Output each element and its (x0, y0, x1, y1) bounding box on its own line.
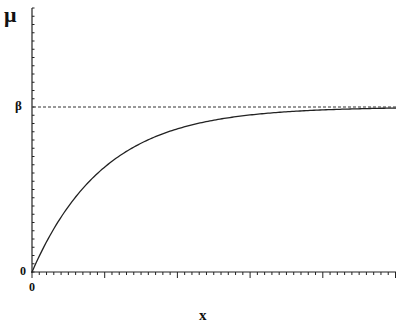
y-tick-beta: β (15, 98, 22, 114)
y-axis-label: μ (4, 2, 16, 28)
x-axis-label: x (199, 307, 207, 324)
saturation-curve (32, 108, 396, 272)
chart-canvas (0, 0, 411, 330)
x-tick-zero: 0 (29, 280, 35, 295)
axes (31, 8, 396, 278)
y-tick-zero: 0 (20, 264, 26, 279)
